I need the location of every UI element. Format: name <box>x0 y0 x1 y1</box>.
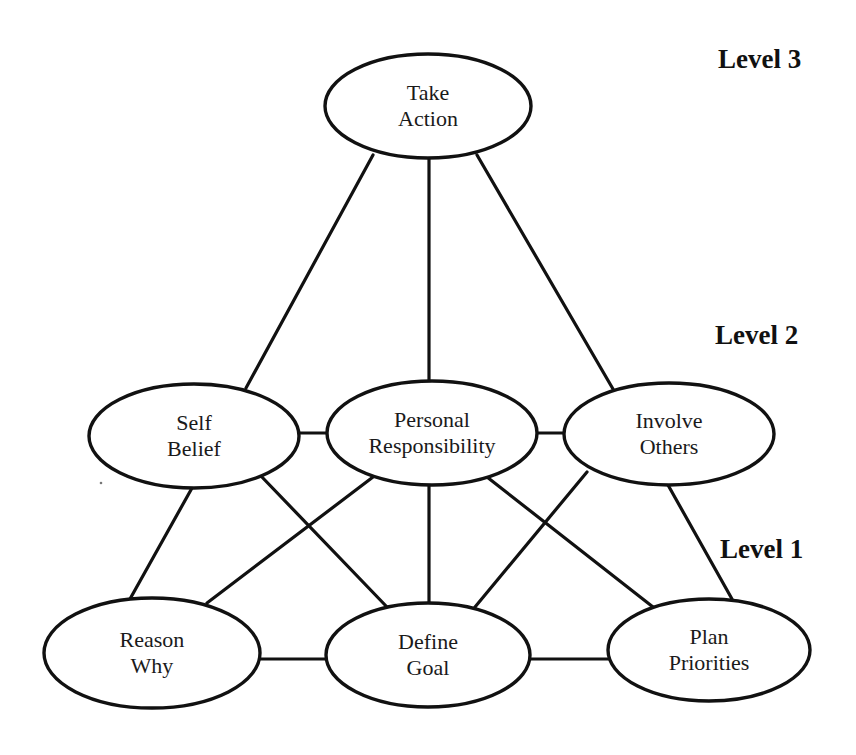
level-label-level3: Level 3 <box>718 44 801 74</box>
node-label-line2: Goal <box>407 655 450 680</box>
edge-personal-responsibility-to-plan-priorities <box>487 477 653 607</box>
edge-take-action-to-self-belief <box>246 155 373 388</box>
edge-self-belief-to-define-goal <box>260 475 387 607</box>
node-involve-others: InvolveOthers <box>564 383 774 485</box>
node-self-belief: SelfBelief <box>89 384 299 488</box>
node-label-line2: Action <box>398 106 458 131</box>
level-labels: Level 3Level 2Level 1 <box>715 44 803 564</box>
node-personal-responsibility: PersonalResponsibility <box>327 381 537 485</box>
node-plan-priorities: PlanPriorities <box>608 599 810 701</box>
level-label-level2: Level 2 <box>715 320 798 350</box>
node-label-line1: Reason <box>120 627 185 652</box>
edge-take-action-to-involve-others <box>477 155 613 389</box>
stray-speck <box>100 482 103 485</box>
node-label-line1: Personal <box>394 407 470 432</box>
node-label-line2: Priorities <box>669 650 750 675</box>
node-label-line1: Involve <box>635 408 702 433</box>
edge-involve-others-to-define-goal <box>475 472 587 607</box>
diagram-canvas: TakeActionSelfBeliefPersonalResponsibili… <box>0 0 856 755</box>
node-label-line2: Why <box>131 653 174 678</box>
node-reason-why: ReasonWhy <box>44 598 260 708</box>
edge-self-belief-to-reason-why <box>130 488 192 599</box>
node-take-action: TakeAction <box>325 54 531 158</box>
node-label-line2: Responsibility <box>368 433 495 458</box>
edge-personal-responsibility-to-reason-why <box>207 477 373 603</box>
node-define-goal: DefineGoal <box>326 603 530 707</box>
node-label-line2: Others <box>640 434 699 459</box>
node-label-line1: Take <box>407 80 449 105</box>
node-label-line2: Belief <box>167 436 221 461</box>
level-label-level1: Level 1 <box>720 534 803 564</box>
node-label-line1: Define <box>398 629 458 654</box>
node-label-line1: Self <box>176 410 212 435</box>
node-label-line1: Plan <box>689 624 728 649</box>
diagram-nodes: TakeActionSelfBeliefPersonalResponsibili… <box>44 54 810 708</box>
